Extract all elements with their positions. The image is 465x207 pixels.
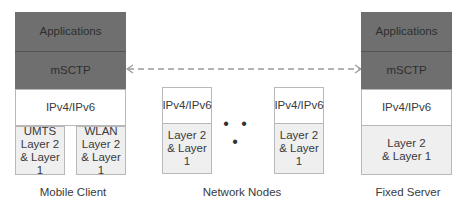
node1-link-layer: Layer 2 & Layer 1 — [162, 124, 212, 174]
node2-link-layer: Layer 2 & Layer 1 — [274, 124, 324, 174]
server-link-line1: Layer 2 — [387, 137, 425, 150]
mobile-client-label: Mobile Client — [23, 186, 123, 198]
mobile-applications-text: Applications — [39, 25, 101, 38]
umts-line2: Layer 2 — [21, 138, 59, 151]
wlan-link-layer: WLAN Layer 2 & Layer 1 — [76, 126, 126, 175]
umts-link-layer: UMTS Layer 2 & Layer 1 — [15, 126, 65, 175]
node2-ip-text: IPv4/IPv6 — [274, 99, 323, 112]
network-node-2: IPv4/IPv6 Layer 2 & Layer 1 — [274, 87, 324, 174]
mobile-client-stack: Applications mSCTP IPv4/IPv6 UMTS Layer … — [15, 12, 126, 175]
wlan-line2: Layer 2 — [82, 138, 120, 151]
node1-link-line2: & Layer 1 — [163, 142, 211, 168]
server-msctp-layer: mSCTP — [361, 51, 452, 89]
server-link-line2: & Layer 1 — [382, 150, 431, 163]
mobile-ip-layer: IPv4/IPv6 — [15, 89, 126, 126]
server-ip-layer: IPv4/IPv6 — [361, 89, 452, 126]
mobile-msctp-text: mSCTP — [50, 64, 90, 77]
node1-link-line1: Layer 2 — [168, 129, 206, 142]
fixed-server-label: Fixed Server — [358, 186, 458, 198]
umts-line1: UMTS — [24, 125, 57, 138]
server-link-layer: Layer 2 & Layer 1 — [361, 126, 452, 175]
network-nodes-label: Network Nodes — [192, 186, 292, 198]
mobile-applications-layer: Applications — [15, 12, 126, 51]
node1-ip-text: IPv4/IPv6 — [162, 99, 211, 112]
server-applications-layer: Applications — [361, 12, 452, 51]
fixed-server-stack: Applications mSCTP IPv4/IPv6 Layer 2 & L… — [361, 12, 452, 175]
server-ip-text: IPv4/IPv6 — [382, 101, 431, 114]
ellipsis-dots: • • • — [217, 115, 257, 151]
node2-link-line1: Layer 2 — [280, 129, 318, 142]
msctp-connection-arrow — [124, 62, 364, 76]
node1-ip-layer: IPv4/IPv6 — [162, 87, 212, 124]
server-applications-text: Applications — [375, 25, 437, 38]
wlan-line3: & Layer 1 — [77, 151, 125, 177]
node2-link-line2: & Layer 1 — [275, 142, 323, 168]
node2-ip-layer: IPv4/IPv6 — [274, 87, 324, 124]
network-node-1: IPv4/IPv6 Layer 2 & Layer 1 — [162, 87, 212, 174]
mobile-link-layers: UMTS Layer 2 & Layer 1 WLAN Layer 2 & La… — [15, 126, 126, 175]
mobile-ip-text: IPv4/IPv6 — [46, 101, 95, 114]
mobile-msctp-layer: mSCTP — [15, 51, 126, 89]
server-msctp-text: mSCTP — [386, 64, 426, 77]
wlan-line1: WLAN — [84, 125, 117, 138]
umts-line3: & Layer 1 — [16, 151, 64, 177]
